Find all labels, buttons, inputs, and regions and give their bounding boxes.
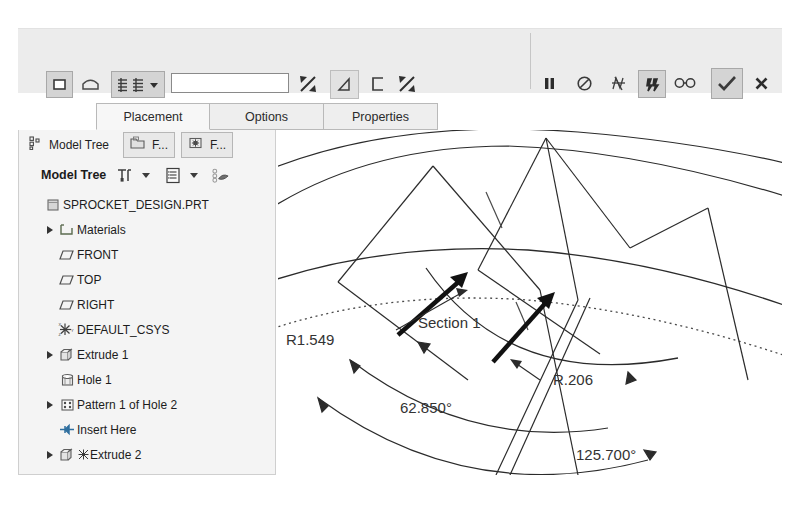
feature-preview-icon[interactable] [638, 70, 666, 98]
tree-filters-icon[interactable] [163, 166, 182, 185]
extrude-solid-icon[interactable] [46, 71, 73, 98]
extrude-surface-icon[interactable] [78, 71, 103, 96]
tree-item-label: Extrude 1 [77, 348, 128, 362]
tree-expander[interactable] [43, 401, 57, 409]
outer-diameter-arc [278, 130, 782, 170]
radial-construction-lines [496, 138, 748, 475]
glasses-preview-icon[interactable] [672, 71, 698, 95]
extrude-feature-icon [57, 448, 77, 462]
tree-item-label: Materials [77, 223, 126, 237]
in-progress-marker-icon [77, 449, 90, 460]
navigator-panel: Model Tree F... [18, 130, 276, 475]
tree-item-label: Hole 1 [77, 373, 112, 387]
pattern-feature-icon [57, 398, 77, 412]
geometry-preview-icon[interactable] [606, 71, 630, 95]
settings-dropdown-icon[interactable] [136, 166, 155, 185]
navigator-toolbar-title: Model Tree [41, 168, 106, 182]
tree-row[interactable]: Pattern 1 of Hole 2 [29, 392, 275, 417]
accept-check-icon[interactable] [711, 68, 743, 99]
tooth-profile-lines [338, 138, 708, 475]
tree-item-label: TOP [77, 273, 101, 287]
thicken-sketch-icon[interactable] [366, 71, 390, 96]
tree-row[interactable]: RIGHT [29, 292, 275, 317]
tip-diameter-arc [278, 146, 782, 210]
datum-plane-icon [57, 249, 77, 261]
tree-item-label: Extrude 2 [90, 448, 141, 462]
radius-dim-small-text[interactable]: R.206 [553, 371, 593, 388]
svg-text:X: X [59, 322, 62, 327]
tree-item-label: RIGHT [77, 298, 114, 312]
angle-dim-outer-text[interactable]: 125.700° [576, 446, 636, 463]
model-tree-tab-label: Model Tree [49, 138, 109, 152]
svg-text:Y: Y [71, 328, 74, 333]
flip-direction-icon[interactable] [295, 71, 321, 96]
model-tree: SPROCKET_DESIGN.PRT Materials [19, 192, 275, 467]
graphics-viewport[interactable]: R1.549 R.206 62.850° 125.700° Section 1 [278, 130, 782, 475]
dimension-arrowheads [318, 342, 656, 460]
settings-tools-icon[interactable] [115, 166, 134, 185]
tab-options-label: Options [245, 110, 288, 124]
tree-item-label: Pattern 1 of Hole 2 [77, 398, 177, 412]
tab-properties-label: Properties [352, 110, 409, 124]
feature-dashboard [18, 28, 782, 93]
model-tree-tab[interactable]: Model Tree [23, 132, 115, 158]
tree-row[interactable]: Extrude 1 [29, 342, 275, 367]
tree-row[interactable]: FRONT [29, 242, 275, 267]
extrude-feature-icon [57, 348, 77, 362]
folder-browser-tab-label: F... [152, 138, 168, 152]
pause-icon[interactable] [538, 71, 560, 95]
tab-properties[interactable]: Properties [324, 103, 438, 130]
model-tree-grid-icon [29, 136, 43, 154]
favorites-tab-label: F... [210, 138, 226, 152]
favorites-tab[interactable]: F... [181, 132, 233, 158]
sprocket-section-geometry: R1.549 R.206 62.850° 125.700° Section 1 [278, 130, 782, 475]
favorites-star-icon [188, 136, 204, 154]
tree-row[interactable]: Extrude 2 [29, 442, 275, 467]
folder-browser-tab[interactable]: F... [123, 132, 175, 158]
part-icon [43, 198, 63, 212]
depth-value-input[interactable] [171, 73, 289, 93]
dashboard-left-group [18, 29, 526, 93]
dashboard-right-group [538, 29, 782, 93]
tree-expander[interactable] [43, 351, 57, 359]
tree-row[interactable]: X Z Y DEFAULT_CSYS [29, 317, 275, 342]
folder-browser-icon [130, 136, 146, 154]
filters-dropdown-icon[interactable] [184, 166, 203, 185]
display-style-icon[interactable] [211, 166, 230, 185]
tree-row[interactable]: Materials [29, 217, 275, 242]
leader-radius-small [510, 359, 540, 380]
tree-item-label: FRONT [77, 248, 118, 262]
navigator-tabrow: Model Tree F... [19, 130, 275, 160]
datum-plane-icon [57, 274, 77, 286]
angle-dim-inner-text[interactable]: 62.850° [400, 399, 452, 416]
tree-row[interactable]: Hole 1 [29, 367, 275, 392]
tab-placement-label: Placement [123, 110, 182, 124]
flip-material-side-icon[interactable] [394, 71, 420, 96]
materials-folder-icon [57, 223, 77, 237]
tree-expander[interactable] [43, 226, 57, 234]
tree-item-label: Insert Here [77, 423, 136, 437]
insert-here-icon [57, 423, 77, 436]
draft-angle-icon[interactable] [330, 70, 359, 99]
selection-arrow-right [493, 292, 555, 362]
dashboard-divider [530, 33, 531, 89]
depth-options-icon[interactable] [111, 71, 165, 98]
tree-row[interactable]: TOP [29, 267, 275, 292]
dashboard-tabstrip: Placement Options Properties [96, 103, 438, 130]
tab-placement[interactable]: Placement [96, 103, 210, 130]
cancel-x-icon[interactable] [749, 71, 773, 95]
navigator-toolbar: Model Tree [19, 162, 275, 188]
angle-arc-outer [318, 398, 648, 475]
no-preview-icon[interactable] [572, 71, 596, 95]
tab-options[interactable]: Options [210, 103, 324, 130]
radius-dim-large-text[interactable]: R1.549 [286, 331, 334, 348]
tree-expander[interactable] [43, 451, 57, 459]
application-window: Placement Options Properties [0, 0, 800, 507]
section-label[interactable]: Section 1 [418, 314, 481, 331]
hole-feature-icon [57, 373, 77, 387]
tree-item-label: SPROCKET_DESIGN.PRT [63, 198, 209, 212]
tree-row[interactable]: Insert Here [29, 417, 275, 442]
datum-plane-icon [57, 299, 77, 311]
tree-row[interactable]: SPROCKET_DESIGN.PRT [29, 192, 275, 217]
coordinate-system-icon: X Z Y [57, 322, 77, 337]
